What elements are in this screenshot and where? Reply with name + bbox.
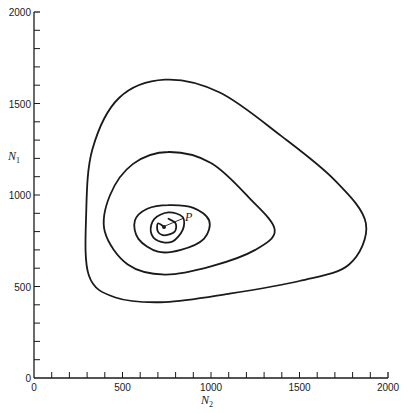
tick-labels: 05001000150020000500100015002000 [9,7,400,393]
x-tick-label: 1500 [288,382,311,393]
y-axis-label: N1 [7,149,20,165]
x-axis-label: N2 [200,393,213,409]
trajectory-loop-5 [157,219,176,236]
trajectory-loop-1 [85,80,366,303]
x-tick-label: 500 [114,382,131,393]
trajectory-loop-4 [151,212,185,242]
y-tick-label: 0 [25,373,31,384]
x-tick-label: 1000 [200,382,223,393]
phase-plot: 05001000150020000500100015002000 N1 N2 P [0,0,407,413]
y-tick-label: 500 [14,282,31,293]
y-tick-label: 2000 [9,7,32,18]
trajectory-curves [85,80,366,303]
point-label: P [184,210,193,224]
y-tick-label: 1500 [9,99,32,110]
y-tick-label: 1000 [9,190,32,201]
x-tick-label: 0 [31,382,37,393]
x-tick-label: 2000 [377,382,400,393]
ticks [34,30,370,378]
